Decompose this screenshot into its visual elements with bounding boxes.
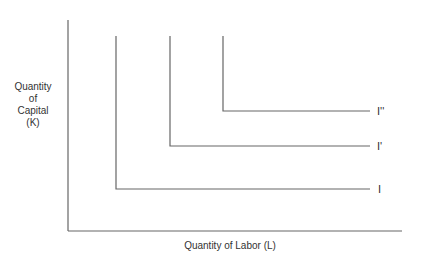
isoquant-diagram [0,0,426,272]
isoquant-label-I-double-prime: I'' [377,105,384,117]
y-axis-label: Quantity of Capital (K) [8,81,58,129]
y-axis-label-line: Quantity [8,81,58,93]
y-axis-label-line: Capital [8,105,58,117]
isoquant-I-double-prime [223,36,370,111]
isoquant-label-I: I [378,183,381,195]
y-axis-label-line: (K) [8,117,58,129]
isoquant-I [116,36,370,189]
isoquant-label-I-prime: I' [377,140,382,152]
x-axis-label: Quantity of Labor (L) [150,240,310,252]
y-axis-label-line: of [8,93,58,105]
isoquant-I-prime [170,36,370,146]
